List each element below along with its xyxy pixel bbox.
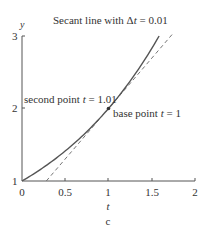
chart: y 3 2 1 0 0.5 1 1.5 2 t c Secant line wi… [0, 0, 207, 229]
x-tick-label: 1 [105, 186, 111, 198]
x-tick-label: 1.5 [145, 186, 159, 198]
annotation-base-point: base point t = 1 [113, 107, 181, 119]
y-tick-label: 3 [12, 30, 18, 42]
x-tick-label: 2 [192, 186, 198, 198]
chart-title: Secant line with Δt = 0.01 [53, 14, 168, 26]
x-axis-label: t [106, 200, 110, 212]
y-axis-label: y [19, 19, 25, 30]
x-tick-label: 0 [19, 186, 25, 198]
y-tick-label: 1 [12, 175, 18, 187]
figure-caption: c [106, 215, 111, 227]
annotation-second-point: second point t = 1.01 [24, 93, 117, 105]
y-tick-label: 2 [12, 102, 18, 114]
base-point-marker [107, 107, 111, 111]
x-tick-label: 0.5 [58, 186, 72, 198]
